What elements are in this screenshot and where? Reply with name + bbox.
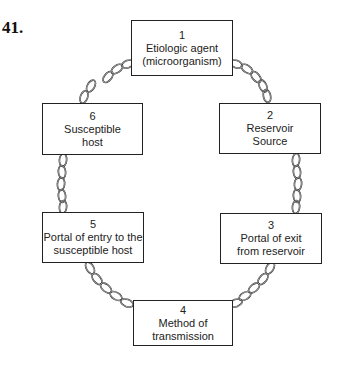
node-etiologic-agent: 1 Etiologic agent (microorganism) <box>131 20 233 76</box>
node-label-line2: (microorganism) <box>142 55 221 68</box>
node-label-line1: Portal of entry to the <box>43 231 142 244</box>
node-number: 3 <box>268 219 274 232</box>
node-label-line2: host <box>82 136 103 149</box>
node-label-line2: from reservoir <box>237 245 305 258</box>
node-number: 5 <box>90 218 96 231</box>
node-number: 6 <box>89 110 95 123</box>
node-portal-of-exit: 3 Portal of exit from reservoir <box>220 213 322 264</box>
node-label-line2: Source <box>253 135 288 148</box>
chain-2-3 <box>292 153 302 214</box>
node-number: 2 <box>267 109 273 122</box>
node-label-line2: transmission <box>152 330 214 343</box>
chain-3-4 <box>229 261 277 309</box>
node-label-line1: Portal of exit <box>240 232 301 245</box>
node-label-line1: Method of <box>159 317 208 330</box>
chain-1-2 <box>229 58 272 103</box>
node-label-line2: susceptible host <box>54 244 133 257</box>
node-number: 1 <box>179 29 185 42</box>
node-portal-of-entry: 5 Portal of entry to the susceptible hos… <box>42 212 144 263</box>
node-number: 4 <box>180 304 186 317</box>
node-label-line1: Susceptible <box>64 123 121 136</box>
chain-4-5 <box>84 261 135 309</box>
node-label-line1: Reservoir <box>246 122 293 135</box>
node-method-of-transmission: 4 Method of transmission <box>133 300 233 346</box>
node-reservoir: 2 Reservoir Source <box>219 103 321 154</box>
chain-5-6 <box>57 153 67 214</box>
node-label-line1: Etiologic agent <box>146 42 218 55</box>
node-susceptible-host: 6 Susceptible host <box>42 103 143 155</box>
chain-6-1 <box>78 58 135 104</box>
